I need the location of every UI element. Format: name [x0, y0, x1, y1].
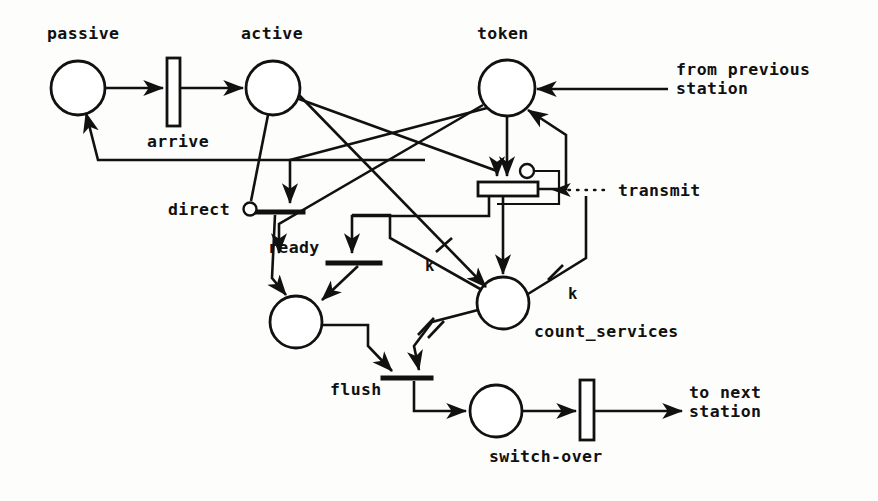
- arc-transmit-to-ready: [352, 197, 489, 253]
- label-transmit: transmit: [618, 181, 701, 200]
- label-flush: flush: [330, 380, 382, 399]
- place-passive[interactable]: [51, 61, 105, 115]
- inhibitor-circle-direct: [244, 203, 257, 216]
- label-to-next-line2: station: [689, 402, 761, 421]
- label-token: token: [477, 24, 529, 43]
- transition-ready[interactable]: [326, 261, 382, 265]
- arc-count-services-up-right: [528, 196, 586, 294]
- place-active[interactable]: [246, 61, 300, 115]
- label-to-next-line1: to next: [689, 383, 761, 402]
- arc-count-services-up-left: [352, 215, 482, 290]
- label-direct: direct: [168, 200, 230, 219]
- arc-transmit-to-token: [528, 110, 566, 189]
- arc-active-to-count-services: [299, 95, 486, 287]
- transition-arrive[interactable]: [167, 58, 180, 126]
- label-count-services: count_services: [534, 322, 679, 341]
- label-k-right: k: [568, 285, 578, 304]
- label-active: active: [241, 24, 303, 43]
- label-from-previous-line1: from previous: [676, 60, 810, 79]
- arc-active-to-direct-inhibitor: [251, 115, 268, 201]
- transition-switch-over[interactable]: [580, 380, 594, 440]
- label-k-left: k: [425, 257, 435, 276]
- inhibitor-circle-transmit: [520, 164, 534, 178]
- label-from-previous-line2: station: [676, 79, 748, 98]
- place-token[interactable]: [479, 60, 535, 116]
- label-arrive: arrive: [147, 132, 209, 151]
- transition-flush[interactable]: [381, 376, 433, 380]
- place-switch-input[interactable]: [470, 385, 522, 437]
- label-passive: passive: [47, 24, 119, 43]
- petri-net-diagram: passive active token arrive direct ready…: [0, 0, 878, 501]
- arc-place-to-flush: [322, 325, 392, 371]
- arc-flush-to-place: [414, 381, 466, 411]
- arc-active-to-transmit: [299, 99, 497, 176]
- arc-count-services-to-flush: [414, 310, 478, 370]
- arc-ready-to-place: [322, 266, 358, 300]
- label-switch-over: switch-over: [489, 447, 603, 466]
- label-ready: ready: [268, 238, 320, 257]
- place-ready-output[interactable]: [270, 296, 322, 348]
- transition-transmit[interactable]: [478, 182, 538, 196]
